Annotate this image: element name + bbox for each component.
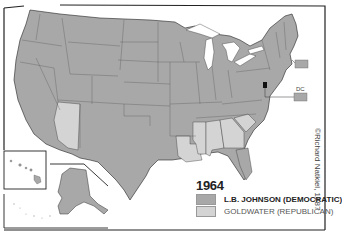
mainland-us bbox=[14, 10, 298, 200]
dc-callout-label: DC bbox=[296, 86, 305, 92]
copyright-credit: ©Richard Natkiel, 1987 bbox=[313, 128, 322, 210]
map-year-title: 1964 bbox=[196, 178, 224, 193]
legend-swatch-democratic bbox=[196, 194, 216, 205]
dc-box bbox=[294, 93, 307, 101]
ri-box bbox=[295, 60, 308, 68]
frame-line bbox=[4, 6, 24, 8]
hawaii-inset-frame bbox=[4, 151, 46, 189]
dc-marker bbox=[263, 82, 267, 88]
legend-swatch-republican bbox=[196, 206, 216, 217]
legend-label-democratic: L.B. JOHNSON (DEMOCRATIC) bbox=[224, 195, 342, 204]
state-alaska bbox=[58, 168, 108, 214]
aleutian-islands bbox=[13, 203, 50, 218]
